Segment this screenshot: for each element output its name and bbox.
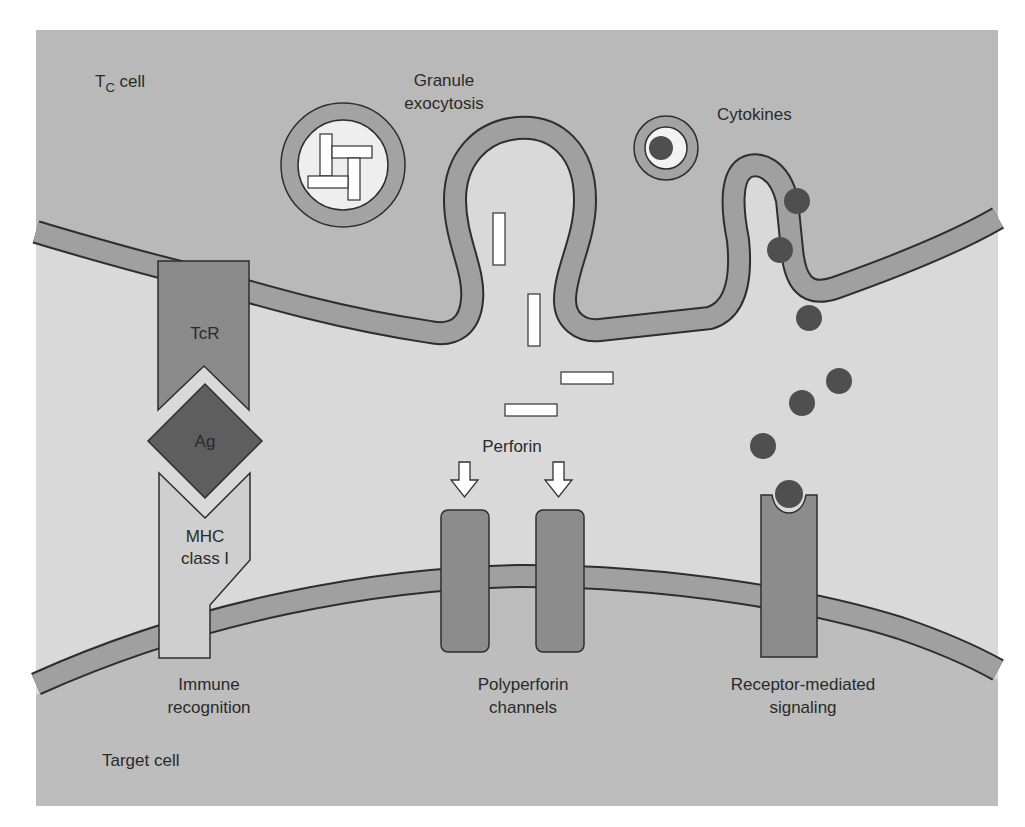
target-cell-label: Target cell (102, 751, 179, 770)
cytokine-vesicle (634, 116, 698, 180)
cytokines-label: Cytokines (717, 105, 792, 124)
granule-exocytosis-label-2: exocytosis (404, 94, 483, 113)
perforin-label: Perforin (482, 437, 542, 456)
polyperforin-channel-right (536, 510, 584, 652)
granule-exocytosis-label: Granule (414, 71, 474, 90)
mhc-label-2: class I (181, 549, 229, 568)
tcr-label: TcR (190, 324, 219, 343)
immune-recognition-label: Immune (178, 675, 239, 694)
immune-recognition-label-2: recognition (167, 698, 250, 717)
polyperforin-channel-left (441, 510, 489, 652)
cytokine-receptor (761, 480, 817, 657)
receptor-signaling-label-2: signaling (769, 698, 836, 717)
polyperforin-label-2: channels (489, 698, 557, 717)
granule-vesicle (281, 103, 405, 227)
immune-mechanism-diagram: TC cell Granule exocytosis Cytokines TcR… (0, 0, 1025, 827)
receptor-signaling-label: Receptor-mediated (731, 675, 876, 694)
polyperforin-label: Polyperforin (478, 675, 569, 694)
mhc-label: MHC (186, 527, 225, 546)
ag-label: Ag (195, 432, 216, 451)
